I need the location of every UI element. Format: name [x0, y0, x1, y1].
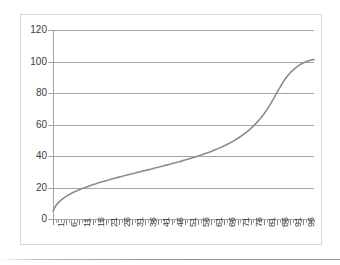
chart-frame: 020406080100120 161116212631364146515661…	[20, 14, 322, 245]
y-axis-label-40: 40	[36, 151, 47, 161]
x-tick-46	[172, 220, 173, 225]
x-tick-41	[158, 220, 159, 225]
x-tick-16	[93, 220, 94, 225]
x-axis-label-41: 41	[162, 217, 171, 227]
x-axis-label-26: 26	[123, 217, 132, 227]
y-tick-80	[48, 93, 53, 94]
series-line-path	[53, 60, 314, 212]
x-tick-26	[119, 220, 120, 225]
y-tick-20	[48, 188, 53, 189]
y-axis-label-120: 120	[30, 25, 47, 35]
x-axis-label-76: 76	[255, 217, 264, 227]
x-tick-11	[79, 220, 80, 225]
x-axis-label-36: 36	[149, 217, 158, 227]
x-tick-31	[132, 220, 133, 225]
x-tick-96	[303, 220, 304, 225]
y-axis-label-80: 80	[36, 88, 47, 98]
page-bottom-rule	[0, 259, 340, 260]
y-tick-100	[48, 62, 53, 63]
series-line-chart	[53, 30, 314, 219]
y-axis-label-20: 20	[36, 183, 47, 193]
x-axis-label-11: 11	[83, 218, 92, 227]
x-tick-61	[211, 220, 212, 225]
x-axis-label-21: 21	[110, 217, 119, 227]
y-axis-label-0: 0	[41, 214, 47, 224]
y-axis-label-100: 100	[30, 57, 47, 67]
y-tick-60	[48, 125, 53, 126]
x-tick-86	[277, 220, 278, 225]
x-tick-36	[145, 220, 146, 225]
x-axis-label-6: 6	[70, 222, 79, 227]
x-axis-label-46: 46	[176, 217, 185, 227]
x-tick-81	[264, 220, 265, 225]
x-axis-label-81: 81	[268, 217, 277, 227]
x-axis-label-71: 71	[242, 217, 251, 227]
x-tick-66	[224, 220, 225, 225]
y-tick-40	[48, 156, 53, 157]
x-axis-label-16: 16	[97, 217, 106, 227]
x-axis-label-86: 86	[281, 217, 290, 227]
x-axis-label-51: 51	[189, 217, 198, 227]
x-tick-6	[66, 220, 67, 225]
x-axis-label-1: 1	[57, 222, 66, 227]
x-tick-56	[198, 220, 199, 225]
y-tick-120	[48, 30, 53, 31]
y-axis-label-60: 60	[36, 120, 47, 130]
plot-area	[53, 30, 314, 219]
screenshot-root: 020406080100120 161116212631364146515661…	[0, 0, 340, 265]
x-axis-label-56: 56	[202, 217, 211, 227]
x-axis-label-66: 66	[228, 217, 237, 227]
x-tick-91	[290, 220, 291, 225]
x-axis-label-31: 31	[136, 217, 145, 227]
x-axis-label-61: 61	[215, 217, 224, 227]
x-tick-1	[53, 220, 54, 225]
x-axis-label-96: 96	[307, 217, 316, 227]
x-axis-label-91: 91	[294, 217, 303, 227]
x-tick-71	[238, 220, 239, 225]
